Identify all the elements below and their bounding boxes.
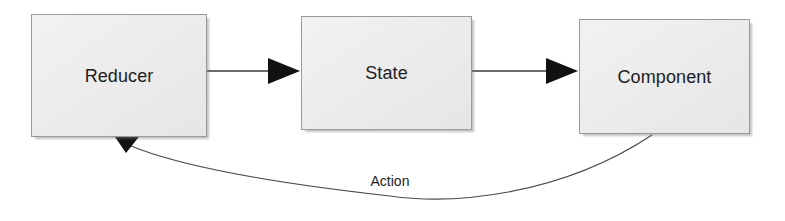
- edge-reducer-to-state: [207, 58, 300, 84]
- node-component-label: Component: [618, 68, 712, 86]
- node-reducer-label: Reducer: [85, 67, 154, 85]
- node-state-label: State: [365, 64, 408, 82]
- edge-reducer-to-state-arrowhead: [268, 58, 300, 84]
- edge-action-label: Action: [349, 173, 431, 190]
- node-reducer[interactable]: Reducer: [31, 14, 207, 137]
- node-component[interactable]: Component: [579, 19, 750, 134]
- flow-diagram: Reducer State Component Action: [0, 0, 785, 221]
- edge-state-to-component: [472, 58, 578, 84]
- node-state[interactable]: State: [301, 16, 472, 130]
- edge-state-to-component-arrowhead: [546, 58, 578, 84]
